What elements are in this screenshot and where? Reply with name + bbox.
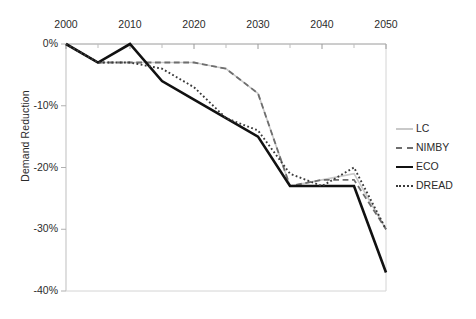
x-tick-label: 2040 bbox=[300, 18, 344, 30]
chart-legend: LC NIMBY ECO DREAD bbox=[396, 118, 476, 194]
axes-layer bbox=[61, 44, 386, 291]
series-line-dread bbox=[66, 44, 386, 229]
series-line-eco bbox=[66, 44, 386, 272]
y-tick-label: 0% bbox=[14, 37, 58, 49]
legend-label-eco: ECO bbox=[416, 160, 439, 172]
legend-item-nimby: NIMBY bbox=[396, 137, 476, 156]
y-tick-label: -30% bbox=[14, 222, 58, 234]
x-tick-label: 2000 bbox=[44, 18, 88, 30]
legend-label-dread: DREAD bbox=[416, 179, 453, 191]
y-tick-label: -10% bbox=[14, 99, 58, 111]
demand-reduction-line-chart: Demand Reduction 0%-10%-20%-30%-40% 2000… bbox=[0, 0, 476, 319]
legend-line-nimby-icon bbox=[396, 142, 413, 152]
x-tick-label: 2050 bbox=[364, 18, 408, 30]
legend-item-dread: DREAD bbox=[396, 175, 476, 194]
legend-line-lc-icon bbox=[396, 123, 413, 133]
legend-label-lc: LC bbox=[416, 122, 429, 134]
legend-item-eco: ECO bbox=[396, 156, 476, 175]
series-line-lc bbox=[66, 44, 386, 229]
legend-line-dread-icon bbox=[396, 180, 413, 190]
series-line-nimby bbox=[66, 44, 386, 229]
legend-item-lc: LC bbox=[396, 118, 476, 137]
x-tick-label: 2030 bbox=[236, 18, 280, 30]
legend-label-nimby: NIMBY bbox=[416, 141, 449, 153]
series-layer bbox=[66, 44, 386, 272]
y-tick-label: -40% bbox=[14, 284, 58, 296]
legend-line-eco-icon bbox=[396, 161, 413, 171]
x-tick-label: 2020 bbox=[172, 18, 216, 30]
x-tick-label: 2010 bbox=[108, 18, 152, 30]
y-tick-label: -20% bbox=[14, 161, 58, 173]
